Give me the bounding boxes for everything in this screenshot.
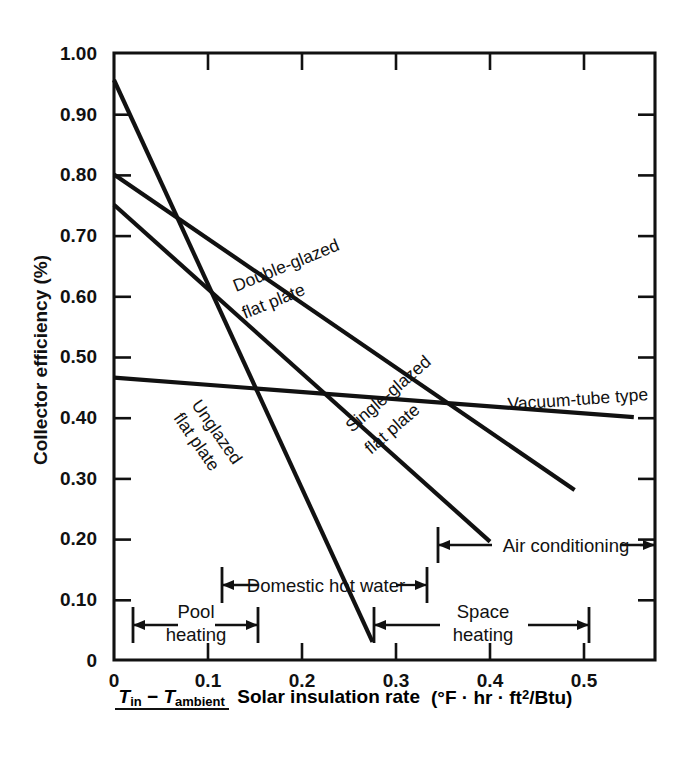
annotation-space-heating: Space heating	[374, 601, 589, 645]
annotation-label-line1: Space	[457, 601, 509, 622]
annotation-pool-heating: Pool heating	[133, 601, 258, 645]
curve-double-glazed-flat-plate	[114, 174, 575, 490]
y-tick-label: 0.30	[60, 468, 97, 489]
y-tick-label: 0.60	[60, 286, 97, 307]
x-axis-ticks-top	[208, 53, 584, 70]
units-open: (°F · hr · ft	[431, 687, 522, 708]
annotation-label-line1: Pool	[177, 601, 214, 622]
y-tick-label: 0.40	[60, 407, 97, 428]
annotation-label: Domestic hot water	[247, 575, 405, 596]
y-axis-ticks-right	[638, 115, 655, 601]
t-ambient-subscript: ambient	[175, 694, 225, 709]
y-tick-label: 0.20	[60, 528, 97, 549]
chart-figure: 1.00 0.90 0.80 0.70 0.60 0.50 0.40 0.30 …	[0, 0, 687, 765]
y-tick-label: 0.90	[60, 104, 97, 125]
curve-label-vacuum-tube: Vacuum-tube type	[507, 384, 649, 414]
y-tick-label: 0.70	[60, 225, 97, 246]
x-axis-numerator: Tin − Tambient	[115, 686, 229, 710]
x-axis-fraction: Tin − Tambient Solar insulation rate	[115, 686, 424, 709]
y-tick-label: 1.00	[60, 43, 97, 64]
minus-sign: −	[147, 686, 158, 707]
annotation-air-conditioning: Air conditioning	[438, 527, 655, 563]
t-in-subscript: in	[130, 694, 142, 709]
curve-unglazed-flat-plate	[114, 80, 373, 642]
curve-label-unglazed: Unglazed flat plate	[170, 396, 247, 475]
data-curves	[114, 80, 634, 642]
y-tick-label: 0.10	[60, 589, 97, 610]
curve-label-single-glazed: Single-glazed flat plate	[342, 351, 435, 458]
x-axis-title: Tin − Tambient Solar insulation rate (°F…	[0, 686, 687, 709]
annotation-label: Air conditioning	[503, 535, 630, 556]
curve-label-double-glazed: Double-glazed flat plate	[230, 235, 342, 323]
chart-svg: 1.00 0.90 0.80 0.70 0.60 0.50 0.40 0.30 …	[0, 0, 687, 690]
y-axis-tick-labels: 1.00 0.90 0.80 0.70 0.60 0.50 0.40 0.30 …	[60, 43, 97, 671]
t-in-symbol: T	[119, 686, 131, 707]
y-tick-label: 0.50	[60, 346, 97, 367]
annotation-label-line2: heating	[166, 624, 227, 645]
y-axis-title: Collector efficiency (%)	[30, 255, 51, 465]
units-close: /Btu)	[529, 687, 572, 708]
x-axis-units: (°F · hr · ft2/Btu)	[424, 687, 572, 709]
t-ambient-symbol: T	[163, 686, 175, 707]
x-axis-ticks	[208, 643, 584, 660]
annotation-domestic-hot-water: Domestic hot water	[222, 567, 427, 603]
x-axis-denominator: Solar insulation rate	[233, 684, 424, 707]
y-axis-ticks	[114, 115, 131, 601]
y-tick-label: 0	[86, 650, 97, 671]
y-tick-label: 0.80	[60, 164, 97, 185]
plot-frame	[114, 53, 655, 660]
annotation-label-line2: heating	[453, 624, 514, 645]
